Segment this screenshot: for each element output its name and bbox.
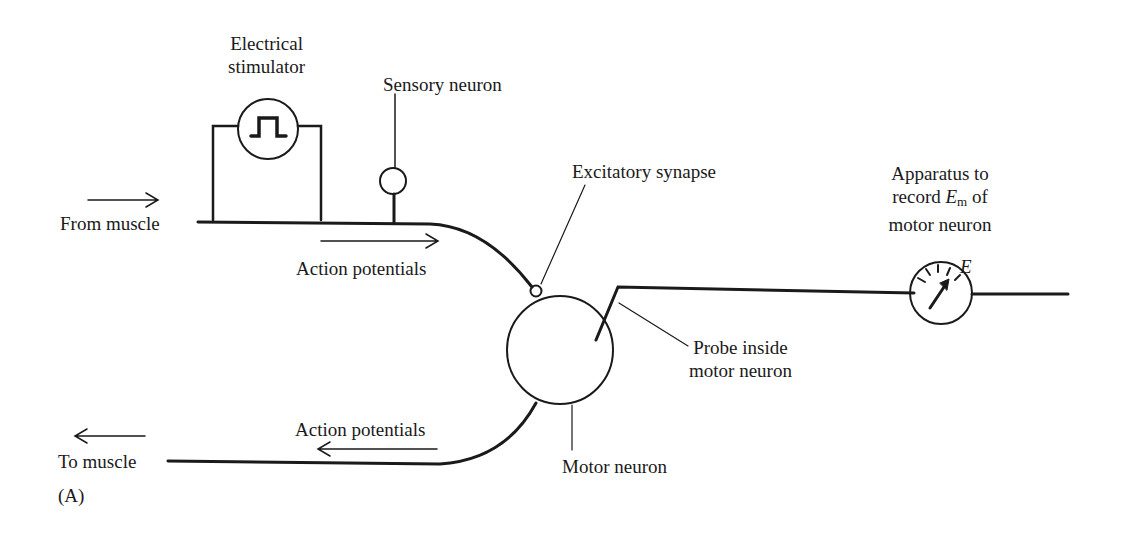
label-line: Apparatus to xyxy=(880,162,1000,185)
diagram-drawing xyxy=(0,0,1123,534)
label-line: Probe inside xyxy=(689,336,792,359)
motor-neuron-body xyxy=(507,296,613,404)
label-line: Electrical xyxy=(228,32,305,55)
probe-label: Probe inside motor neuron xyxy=(689,336,792,382)
from-muscle-label: From muscle xyxy=(60,212,160,235)
stimulator-label: Electrical stimulator xyxy=(228,32,305,78)
stimulator-icon xyxy=(238,99,298,159)
label-line: record Em of xyxy=(880,185,1000,213)
sensory-neuron-body xyxy=(380,168,406,194)
apparatus-label: Apparatus to record Em of motor neuron xyxy=(880,162,1000,236)
arrow-right-icon xyxy=(321,234,438,248)
subscript: m xyxy=(957,194,967,209)
arrow-left-icon xyxy=(75,429,145,443)
stimulator-wire xyxy=(213,126,321,220)
text: of xyxy=(967,186,988,207)
label-line: motor neuron xyxy=(689,359,792,382)
excitatory-synapse-label: Excitatory synapse xyxy=(572,160,716,183)
probe-wire xyxy=(596,287,914,340)
meter-e-label: E xyxy=(960,255,972,278)
square-pulse-icon xyxy=(251,118,286,136)
label-line: motor neuron xyxy=(880,213,1000,236)
action-potentials-out-label: Action potentials xyxy=(295,418,425,441)
symbol-e: E xyxy=(945,186,957,207)
panel-label: (A) xyxy=(58,484,84,507)
arrow-left-icon xyxy=(318,442,437,456)
arrow-right-icon xyxy=(88,193,158,207)
action-potentials-label: Action potentials xyxy=(296,257,426,280)
sensory-neuron-label: Sensory neuron xyxy=(383,73,502,96)
to-muscle-label: To muscle xyxy=(58,450,136,473)
excitatory-synapse xyxy=(531,286,542,297)
motor-neuron-label: Motor neuron xyxy=(562,455,667,478)
text: record xyxy=(892,186,945,207)
label-line: stimulator xyxy=(228,55,305,78)
